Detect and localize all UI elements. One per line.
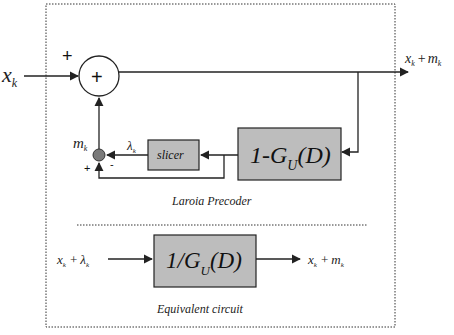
node-m-label: mk: [73, 135, 88, 153]
node-minus-sign: -: [110, 158, 114, 170]
combining-node: [93, 149, 105, 161]
laroia-precoder-diagram: xk + + xk+mk 1-GU(D) slicer λk mk + - La…: [0, 0, 454, 335]
input-label: xk: [1, 62, 18, 90]
equivalent-input-label: xk+λk: [56, 252, 90, 269]
output-label: xk+mk: [404, 51, 442, 68]
equivalent-caption: Equivalent circuit: [156, 302, 244, 316]
summer-plus-symbol: +: [91, 66, 103, 88]
slicer-label: slicer: [157, 148, 184, 162]
summer-input-plus-sign: +: [62, 46, 73, 66]
node-plus-sign: +: [84, 162, 90, 174]
feedback-branch-line: [342, 72, 358, 152]
precoder-caption: Laroia Precoder: [171, 194, 252, 208]
equivalent-output-label: xk+mk: [307, 252, 345, 269]
lambda-label: λk: [126, 138, 137, 155]
